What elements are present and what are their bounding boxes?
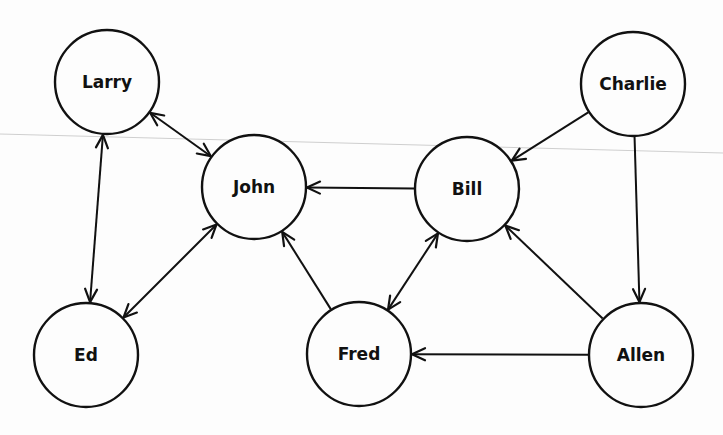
edge-larry-ed xyxy=(85,135,108,302)
arrowhead-icon xyxy=(282,232,294,246)
edge-john-ed xyxy=(123,224,216,317)
node-fred[interactable]: Fred xyxy=(307,302,411,406)
arrowhead-icon xyxy=(512,149,526,161)
node-john[interactable]: John xyxy=(202,135,306,239)
node-bill[interactable]: Bill xyxy=(415,137,519,241)
edge-line xyxy=(307,187,414,188)
node-charlie[interactable]: Charlie xyxy=(581,32,685,136)
edge-charlie-allen xyxy=(633,137,645,302)
edge-fred-john xyxy=(282,232,331,309)
node-label: Allen xyxy=(617,345,665,365)
node-allen[interactable]: Allen xyxy=(589,303,693,407)
edge-line xyxy=(282,232,331,309)
edge-line xyxy=(123,224,216,317)
nodes-layer: Larry John Charlie Bill Ed Fred Allen xyxy=(34,30,693,407)
node-label: Ed xyxy=(74,345,98,365)
node-label: Bill xyxy=(452,179,482,199)
edge-line xyxy=(388,233,438,309)
edge-larry-john xyxy=(150,113,211,156)
network-diagram: Larry John Charlie Bill Ed Fred Allen xyxy=(0,0,723,435)
edge-charlie-bill xyxy=(512,112,588,160)
edge-line xyxy=(512,112,588,160)
edge-line xyxy=(505,226,602,319)
node-label: John xyxy=(232,177,275,197)
edge-allen-bill xyxy=(505,226,602,319)
arrowhead-icon xyxy=(388,295,400,309)
node-label: Larry xyxy=(82,72,132,92)
arrowhead-icon xyxy=(426,233,438,247)
node-label: Charlie xyxy=(599,74,667,94)
scan-artifact-line xyxy=(0,134,723,153)
edge-bill-fred xyxy=(388,233,438,309)
edge-line xyxy=(150,113,211,156)
node-label: Fred xyxy=(338,344,381,364)
node-larry[interactable]: Larry xyxy=(55,30,159,134)
node-ed[interactable]: Ed xyxy=(34,303,138,407)
edge-bill-john xyxy=(307,182,414,194)
edge-line xyxy=(635,137,640,302)
edge-line xyxy=(90,135,103,302)
edge-line xyxy=(412,354,588,355)
edge-allen-fred xyxy=(412,348,588,360)
